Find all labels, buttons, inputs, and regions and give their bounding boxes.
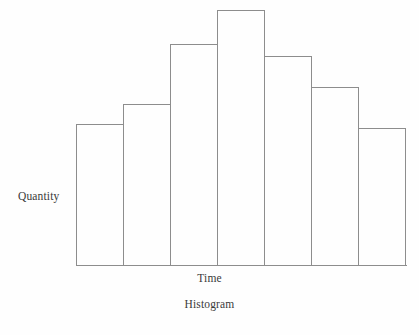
- histogram-bar: [311, 87, 359, 266]
- y-axis-label: Quantity: [18, 190, 59, 202]
- histogram-bar: [123, 104, 171, 265]
- histogram-bar: [76, 124, 124, 265]
- histogram-bar: [358, 128, 406, 265]
- histogram-bar: [170, 44, 218, 265]
- histogram-bar: [264, 56, 312, 265]
- histogram-bar: [217, 10, 265, 265]
- x-axis-label: Time: [0, 272, 419, 284]
- plot-area: [76, 10, 406, 265]
- x-axis-line: [76, 265, 407, 266]
- bar-series: [76, 10, 406, 265]
- figure-caption: Histogram: [0, 298, 419, 310]
- histogram-figure: Quantity Time Histogram: [0, 0, 419, 335]
